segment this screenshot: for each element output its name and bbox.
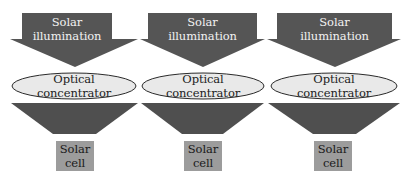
solar-cell-label: Solar cell xyxy=(314,142,352,170)
column-3: Solar illumination Optical concentrator … xyxy=(0,0,404,181)
concentrated-light-trapezoid xyxy=(268,103,400,134)
concentrator-label: Optical concentrator xyxy=(273,72,395,100)
illumination-label: Solar illumination xyxy=(277,15,392,43)
solar-concentrator-diagram: Solar illumination Optical concentrator … xyxy=(0,0,404,181)
